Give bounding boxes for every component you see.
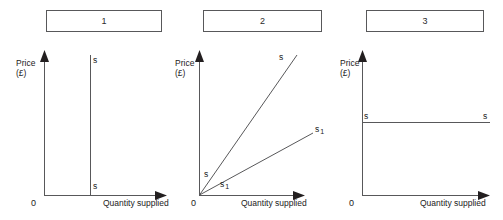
panel-2-curve-label-s-bottom: s: [204, 170, 208, 179]
panel-1: 1 Price (£) 0 Qu: [0, 0, 168, 220]
panel-2: 2 Price (£): [168, 0, 336, 220]
panel-3-curve-label-s-right: s: [483, 112, 487, 121]
panel-2-curve-label-s-top: s: [279, 53, 283, 62]
panel-3-y-axis-label: Price (£): [340, 58, 359, 78]
panel-2-curve-label-s1-top: s1: [315, 125, 323, 134]
panel-2-y-axis-label-line2: (£): [175, 68, 185, 78]
panel-1-curve-label-s-bottom: s: [93, 182, 97, 191]
panel-2-curve-label-s1-top-sub: 1: [320, 128, 324, 135]
panel-3-y-axis-label-line1: Price: [340, 58, 359, 68]
panel-2-x-axis-label: Quantity supplied: [241, 198, 307, 208]
panel-1-origin-label: 0: [31, 198, 36, 208]
panel-1-y-axis-label: Price (£): [16, 58, 35, 78]
panel-1-y-axis-label-line2: (£): [16, 68, 26, 78]
panel-3-y-axis-label-line2: (£): [340, 68, 350, 78]
panel-2-y-axis: [195, 50, 204, 196]
panel-1-curve-label-s-top: s: [93, 56, 97, 65]
panel-2-curve-label-s1-bottom-base: s: [220, 179, 224, 189]
panel-2-curve-label-s1-top-base: s: [315, 124, 319, 134]
panel-3: 3 Price (£) 0 Qu: [331, 0, 499, 220]
panel-3-x-axis-label: Quantity supplied: [420, 198, 486, 208]
panel-1-y-axis-label-line1: Price: [16, 58, 35, 68]
panel-1-y-axis: [40, 50, 49, 196]
panel-3-plot: Price (£) 0 Quantity supplied s s: [331, 0, 499, 220]
panel-2-supply-curve-s1: [200, 133, 314, 195]
panel-2-curve-label-s1-bottom-sub: 1: [225, 183, 229, 190]
panel-2-curve-label-s1-bottom: s1: [220, 180, 228, 189]
supply-elasticity-figure: 1 Price (£) 0 Qu: [0, 0, 503, 220]
panel-3-origin-label: 0: [349, 198, 354, 208]
panel-3-curve-label-s-left: s: [364, 112, 368, 121]
panel-2-plot: Price (£) 0 Quantity supplied s s s1 s1: [168, 0, 336, 220]
panel-1-plot: Price (£) 0 Quantity supplied s s: [0, 0, 168, 220]
panel-1-x-axis-label: Quantity supplied: [103, 198, 169, 208]
panel-2-origin-label: 0: [191, 198, 196, 208]
panel-2-y-axis-label-line1: Price: [175, 58, 194, 68]
panel-2-supply-curve-s: [200, 55, 298, 195]
panel-2-y-axis-label: Price (£): [175, 58, 194, 78]
